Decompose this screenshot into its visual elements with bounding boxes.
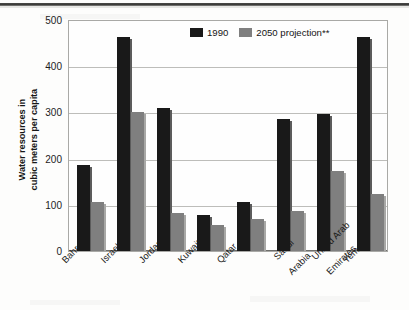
bar-1990: [77, 165, 91, 251]
bar-group: [237, 21, 265, 251]
bar-2050: [91, 202, 105, 251]
bar-group: [197, 21, 225, 251]
bar-1990: [357, 37, 371, 251]
scan-artifact: [30, 300, 120, 305]
scan-artifact: [40, 14, 140, 19]
bar-2050: [371, 194, 385, 251]
bar-group: [157, 21, 185, 251]
legend-item-1990: 1990: [190, 27, 228, 38]
y-tick-500: 500: [28, 15, 62, 26]
x-label-saudi-line2: Arabia: [285, 250, 312, 277]
bar-group: [317, 21, 345, 251]
bars-layer: [69, 21, 387, 251]
bar-2050: [131, 112, 145, 251]
chart-page: Water resources in cubic meters per capi…: [0, 0, 409, 310]
scan-artifact: [250, 296, 370, 302]
chart-legend: 1990 2050 projection**: [190, 27, 329, 38]
bar-group: [277, 21, 305, 251]
legend-swatch-2050: [239, 28, 252, 37]
legend-label-2050: 2050 projection**: [256, 27, 329, 38]
y-axis-title-line2: cubic meters per capita: [29, 89, 39, 191]
bar-2050: [331, 171, 345, 251]
bar-group: [357, 21, 385, 251]
bar-group: [77, 21, 105, 251]
legend-swatch-1990: [190, 28, 203, 37]
bar-2050: [211, 225, 225, 251]
legend-item-2050: 2050 projection**: [239, 27, 329, 38]
bar-2050: [171, 213, 185, 251]
bar-1990: [197, 215, 211, 251]
plot-area: 1990 2050 projection**: [68, 20, 388, 252]
y-axis-title: Water resources in cubic meters per capi…: [17, 40, 40, 240]
bar-1990: [237, 202, 251, 251]
legend-label-1990: 1990: [207, 27, 228, 38]
header-rule-shadow: [0, 6, 409, 8]
bar-1990: [117, 37, 131, 251]
y-tick-0: 0: [28, 246, 62, 257]
bar-group: [117, 21, 145, 251]
bar-2050: [251, 219, 265, 251]
y-axis-title-line1: Water resources in: [17, 99, 27, 181]
bar-1990: [317, 114, 331, 251]
bar-1990: [157, 108, 171, 251]
bar-1990: [277, 119, 291, 251]
bar-2050: [291, 211, 305, 251]
